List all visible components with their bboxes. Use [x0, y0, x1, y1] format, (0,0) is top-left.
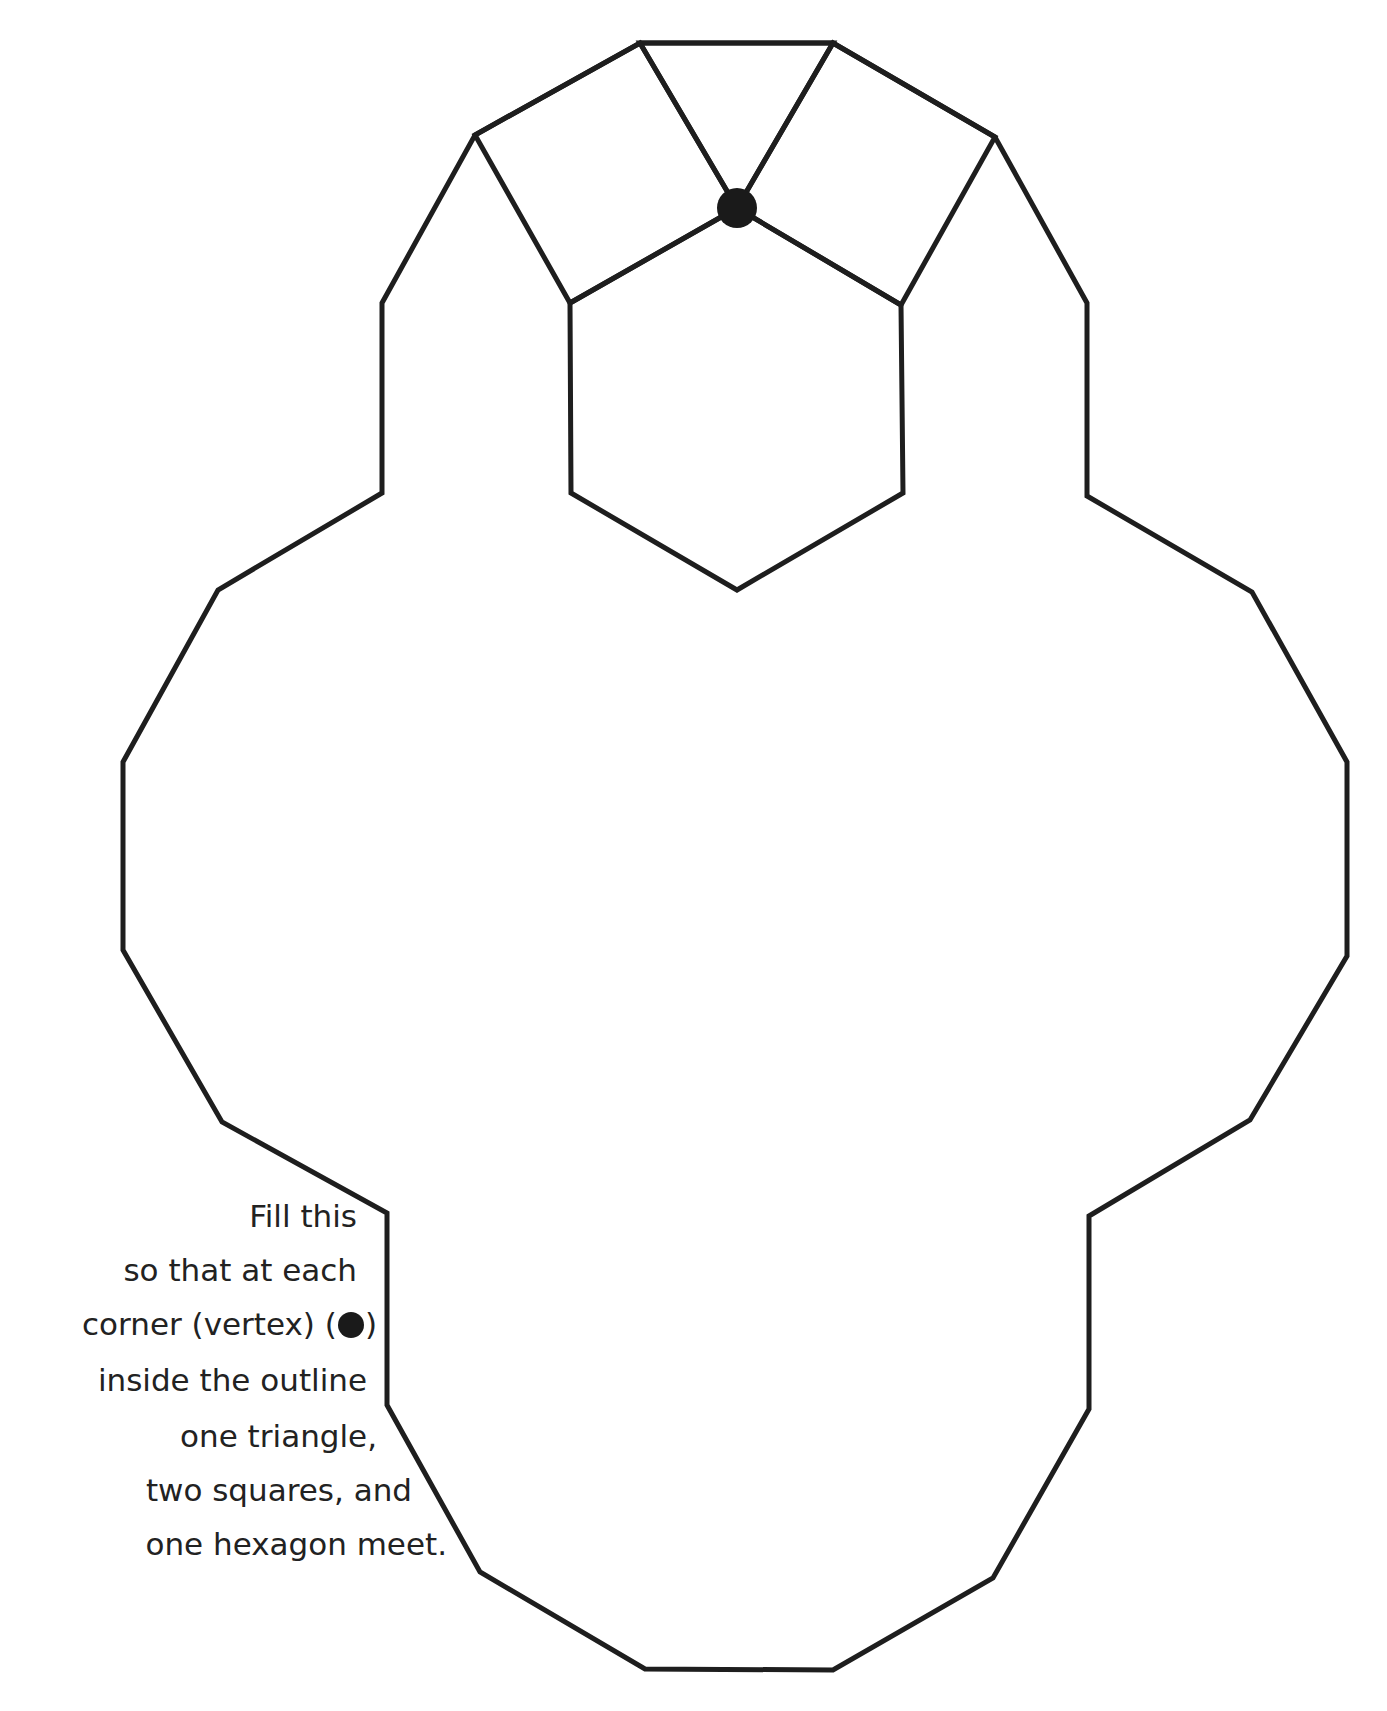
outer-outline: [123, 43, 1347, 1670]
vertex-dot-icon: [717, 188, 757, 228]
prefilled-hexagon: [570, 208, 903, 590]
prefilled-triangle: [640, 43, 833, 208]
tiling-figure: [0, 0, 1387, 1711]
prefilled-right-square: [737, 43, 995, 305]
prefilled-left-square: [475, 43, 737, 303]
